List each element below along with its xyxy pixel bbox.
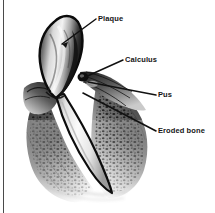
label-calculus: Calculus: [125, 56, 157, 64]
tooth-illustration: [0, 0, 215, 213]
label-plaque: Plaque: [98, 15, 123, 23]
label-eroded-bone: Eroded bone: [158, 127, 205, 135]
label-pus: Pus: [158, 91, 172, 99]
frame-left-border: [3, 0, 4, 213]
illustration-figure: Plaque Calculus Pus Eroded bone: [0, 0, 215, 213]
